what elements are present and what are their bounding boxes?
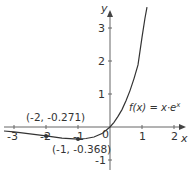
x-axis-label: x bbox=[181, 133, 188, 144]
x-tick-label: -1 bbox=[73, 131, 84, 142]
origin-label: 0 bbox=[102, 129, 109, 140]
x-axis-arrow-icon bbox=[179, 124, 186, 130]
x-tick-label: -3 bbox=[7, 131, 18, 142]
y-axis-label: y bbox=[101, 3, 108, 14]
point-label-minus1: (-1, -0.368) bbox=[52, 144, 111, 155]
y-tick-label: 2 bbox=[98, 56, 105, 67]
x-tick-label: -2 bbox=[40, 131, 51, 142]
function-label-exponent: x bbox=[176, 101, 180, 109]
y-tick-label: 3 bbox=[98, 23, 105, 34]
function-label-text: f(x) = x·e bbox=[129, 102, 176, 113]
y-tick-label: -1 bbox=[95, 155, 106, 166]
x-tick-label: 2 bbox=[171, 131, 178, 142]
function-label: f(x) = x·ex bbox=[129, 102, 180, 113]
x-tick-label: 1 bbox=[139, 131, 146, 142]
point-label-minus2: (-2, -0.271) bbox=[26, 112, 85, 123]
y-tick-label: 1 bbox=[98, 89, 105, 100]
